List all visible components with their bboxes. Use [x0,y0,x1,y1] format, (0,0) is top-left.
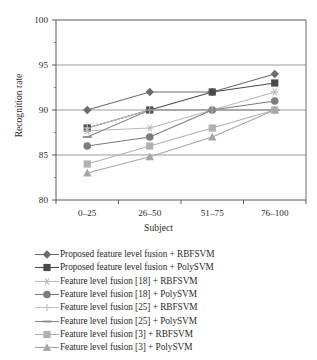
data-point-marker [209,88,216,95]
legend-item: Proposed feature level fusion + PolySVM [34,261,306,274]
legend-marker-plus-icon [34,301,60,314]
legend-item-label: Feature level fusion [3] + PolySVM [60,341,192,354]
y-axis-tick-label: 80 [39,195,49,205]
legend-marker-square-icon [34,261,60,274]
legend-marker-star-icon [34,275,60,288]
data-point-marker [271,79,278,86]
legend-item-label: Proposed feature level fusion + PolySVM [60,261,214,274]
legend-marker-square-icon [34,328,60,341]
data-point-marker [43,250,51,258]
data-point-marker [43,331,50,338]
data-point-marker [209,124,216,131]
data-point-marker [43,278,51,285]
y-axis-tick-label: 90 [39,105,49,115]
x-axis-title: Subject [0,222,317,233]
legend-item: Proposed feature level fusion + RBFSVM [34,248,306,261]
data-point-marker [43,264,50,271]
legend-marker-line-icon [34,315,60,328]
recognition-rate-chart-figure: 808590951000–2526–5051–7576–100 Subject … [0,0,317,360]
legend-item-label: Feature level fusion [18] + RBFSVM [60,275,198,288]
legend-item-label: Feature level fusion [18] + PolySVM [60,288,197,301]
legend-item-label: Feature level fusion [25] + PolySVM [60,315,197,328]
series-line [87,101,275,146]
x-axis-tick-label: 51–75 [201,208,224,218]
legend-marker-triangle-icon [34,341,60,354]
y-axis-tick-label: 95 [39,60,49,70]
legend-item: Feature level fusion [18] + RBFSVM [34,275,306,288]
data-point-marker [146,133,154,141]
y-axis-title: Recognition rate [13,41,24,171]
data-point-marker [146,153,154,161]
series-markers [83,89,278,134]
y-axis-tick-label: 100 [34,15,48,25]
legend-item: Feature level fusion [18] + PolySVM [34,288,306,301]
legend-marker-circle-icon [34,288,60,301]
data-point-marker [43,291,51,299]
data-point-marker [146,125,154,132]
series-line [87,110,275,164]
data-point-marker [83,142,91,150]
x-axis-tick-label: 76–100 [261,208,289,218]
data-point-marker [208,133,216,141]
legend-item: Feature level fusion [3] + PolySVM [34,341,306,354]
legend-item: Feature level fusion [3] + RBFSVM [34,328,306,341]
legend-item-label: Proposed feature level fusion + RBFSVM [60,248,214,261]
y-axis-tick-label: 85 [39,150,49,160]
data-point-marker [146,142,153,149]
data-point-marker [43,304,50,311]
x-axis-tick-label: 0–25 [78,208,97,218]
data-point-marker [84,160,91,167]
data-point-marker [271,89,279,96]
x-axis-tick-label: 26–50 [138,208,161,218]
legend-item-label: Feature level fusion [3] + RBFSVM [60,328,193,341]
legend-marker-diamond-icon [34,248,60,261]
data-point-marker [146,88,154,96]
legend-item: Feature level fusion [25] + PolySVM [34,314,306,327]
data-point-marker [271,97,279,105]
data-point-marker [271,70,279,78]
legend-item-label: Feature level fusion [25] + RBFSVM [60,301,198,314]
line-chart-plot-area: 808590951000–2526–5051–7576–100 [0,0,317,245]
legend-item: Feature level fusion [25] + RBFSVM [34,301,306,314]
chart-series [87,110,275,164]
data-point-marker [83,106,91,114]
chart-series [87,101,275,146]
chart-legend: Proposed feature level fusion + RBFSVMPr… [34,248,306,354]
